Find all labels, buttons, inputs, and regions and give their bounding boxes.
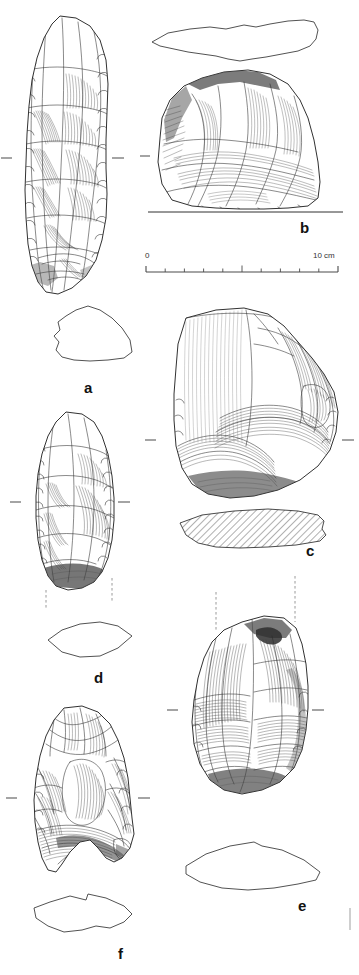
lithic-illustration-plate: b 0 10 cm	[0, 0, 359, 975]
artifact-e-profile	[178, 838, 338, 898]
artifact-e-drawing	[180, 608, 325, 838]
artifact-d-drawing	[22, 406, 132, 611]
artifact-d-profile	[42, 616, 142, 666]
artifact-label-d: d	[94, 670, 103, 685]
artifact-label-a: a	[84, 380, 92, 395]
artifact-f-profile	[26, 890, 141, 940]
artifact-label-b: b	[300, 220, 309, 235]
scale-bar-end-label: 10 cm	[313, 252, 335, 260]
artifact-a-profile	[36, 300, 141, 370]
artifact-b-drawing	[148, 66, 343, 221]
artifact-b-profile	[148, 12, 338, 67]
page-edge-artifact	[349, 908, 351, 930]
artifact-label-f: f	[118, 946, 123, 961]
artifact-a-drawing	[14, 12, 129, 307]
artifact-label-e: e	[298, 898, 306, 913]
artifact-c-drawing	[158, 300, 353, 535]
artifact-f-drawing	[18, 700, 153, 900]
scale-bar-start-label: 0	[145, 252, 149, 260]
artifact-label-c: c	[306, 543, 314, 558]
artifact-c-profile	[176, 505, 341, 555]
